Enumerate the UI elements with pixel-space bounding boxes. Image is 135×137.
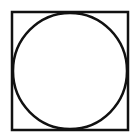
circle-shape	[13, 13, 127, 129]
figure-canvas	[0, 0, 135, 137]
